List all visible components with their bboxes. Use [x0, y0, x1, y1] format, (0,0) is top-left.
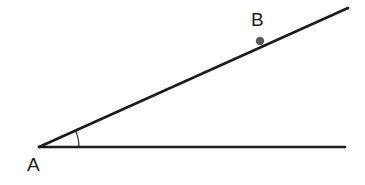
point-b-marker [256, 37, 264, 45]
vertex-label-a: A [27, 155, 40, 174]
point-label-b: B [251, 10, 264, 29]
angle-diagram-canvas: A B [0, 0, 365, 185]
diagonal-ray-through-b [39, 8, 348, 147]
angle-arc [75, 130, 79, 147]
geometry-svg [0, 0, 365, 185]
